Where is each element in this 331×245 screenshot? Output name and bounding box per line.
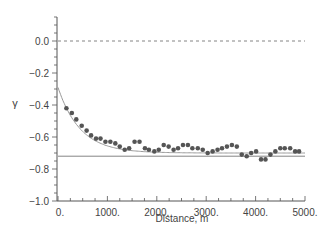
data-point (74, 117, 79, 122)
data-point (278, 146, 283, 151)
data-point (282, 146, 287, 151)
data-point (268, 152, 273, 157)
fit-curve-group (58, 87, 305, 153)
data-point (210, 149, 215, 154)
data-point (215, 148, 220, 153)
data-point (293, 149, 298, 154)
data-point (156, 148, 161, 153)
y-tick-label: −0.2 (29, 68, 49, 79)
data-point (122, 148, 127, 153)
data-point (220, 146, 225, 151)
data-point (84, 128, 89, 133)
data-point (166, 144, 171, 149)
exponential-fit (58, 87, 305, 153)
data-point (205, 151, 210, 156)
data-point (171, 148, 176, 153)
data-point (196, 146, 201, 151)
data-point (254, 149, 259, 154)
data-point (249, 151, 254, 156)
data-point (127, 146, 132, 151)
data-point (244, 154, 249, 159)
data-point (273, 149, 278, 154)
data-point (147, 148, 152, 153)
data-point (89, 133, 94, 138)
data-point (98, 136, 103, 141)
data-point (288, 146, 293, 151)
data-point (235, 144, 240, 149)
x-tick-label: 0. (56, 207, 64, 218)
data-point (113, 141, 118, 146)
data-point (230, 143, 235, 148)
data-point (297, 149, 302, 154)
data-point (181, 143, 186, 148)
y-tick-label: −1.0 (29, 196, 49, 207)
axes (52, 17, 305, 201)
data-point (117, 144, 122, 149)
x-axis-label: Distance, m (156, 213, 209, 224)
y-tick-label: 0.0 (35, 36, 49, 47)
tick-labels: 0.0−0.2−0.4−0.6−0.8−1.00.1000.2000.3000.… (29, 36, 317, 219)
y-axis-label: γ (12, 97, 18, 109)
y-tick-label: −0.8 (29, 164, 49, 175)
data-point (143, 146, 148, 151)
data-point (152, 149, 157, 154)
data-point (176, 146, 181, 151)
y-tick-label: −0.6 (29, 132, 49, 143)
data-point (79, 124, 84, 129)
y-tick-label: −0.4 (29, 100, 49, 111)
data-point (137, 140, 142, 145)
data-point (225, 144, 230, 149)
data-point (200, 148, 205, 153)
data-point (259, 157, 264, 162)
data-point (161, 143, 166, 148)
data-point (186, 143, 191, 148)
data-point (94, 136, 99, 141)
data-point (190, 146, 195, 151)
x-tick-label: 5000. (292, 207, 317, 218)
data-point (239, 152, 244, 157)
x-tick-label: 4000. (243, 207, 268, 218)
data-point (108, 140, 113, 145)
data-point (70, 111, 75, 116)
data-point (263, 157, 268, 162)
x-tick-label: 1000. (95, 207, 120, 218)
data-point (103, 140, 108, 145)
chart-area: 0.0−0.2−0.4−0.6−0.8−1.00.1000.2000.3000.… (0, 0, 331, 245)
data-point (64, 106, 69, 111)
data-point (132, 140, 137, 145)
